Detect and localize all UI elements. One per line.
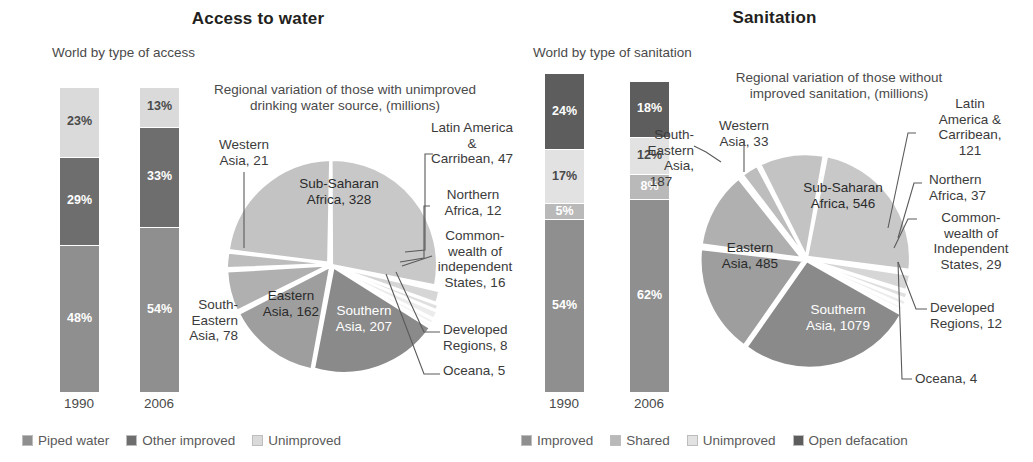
label-line: Asia, 485 <box>708 256 792 272</box>
sanitation-stacked-bar-1990: 24% 17% 5% 54% <box>545 74 584 392</box>
label-line: 121 <box>923 143 1017 159</box>
legend-item-improved[interactable]: Improved <box>521 433 593 448</box>
sanitation-pie-label-south-eastern-asia: South- Eastern Asia, 187 <box>628 127 694 189</box>
label-line: Western <box>703 118 785 134</box>
label-line: Regions, 12 <box>930 316 1020 332</box>
segment-value: 13% <box>147 99 172 113</box>
label-line: wealth of <box>428 244 522 260</box>
segment-value: 48% <box>67 311 92 325</box>
label-line: States, 16 <box>428 275 522 291</box>
label-line: Southern <box>792 302 884 318</box>
label-line: Latin America <box>424 120 520 136</box>
legend-label: Piped water <box>38 433 109 448</box>
label-line: Asia, <box>628 158 694 174</box>
label-line: Southern <box>322 303 406 319</box>
sanitation-panel: Sanitation World by type of sanitation 2… <box>516 0 1033 462</box>
sanitation-bar-year-1990: 1990 <box>532 396 596 411</box>
legend-item-other-improved[interactable]: Other improved <box>126 433 235 448</box>
label-line: Asia, 162 <box>252 304 330 320</box>
water-stacked-bar-1990: 23% 29% 48% <box>60 88 99 392</box>
water-pie-label-south-eastern-asia: South- Eastern Asia, 78 <box>166 297 238 344</box>
water-pie-label-northern-africa: Northern Africa, 12 <box>432 187 514 218</box>
label-line: Sub-Saharan <box>284 176 394 192</box>
water-bar-year-1990: 1990 <box>47 396 111 411</box>
segment-value: 5% <box>555 204 573 218</box>
label-line: Latin <box>923 96 1017 112</box>
legend-swatch-icon <box>22 435 33 446</box>
label-line: Africa, 328 <box>284 192 394 208</box>
access-to-water-panel: Access to water World by type of access … <box>0 0 516 462</box>
label-line: Northern <box>929 172 1017 188</box>
legend-label: Unimproved <box>268 433 341 448</box>
label-line: Regions, 8 <box>443 338 523 354</box>
caption-line-2: drinking water source, (millions) <box>190 98 500 114</box>
water-pie-label-oceana: Oceana, 5 <box>443 363 523 379</box>
segment-value: 29% <box>67 193 92 207</box>
segment-value: 24% <box>552 104 577 118</box>
legend-item-shared[interactable]: Shared <box>610 433 670 448</box>
caption-line-1: Regional variation of those with unimpro… <box>190 82 500 98</box>
water-bars-caption: World by type of access <box>52 45 195 60</box>
label-line: Asia, 207 <box>322 319 406 335</box>
legend-label: Unimproved <box>703 433 776 448</box>
legend-label: Open defacation <box>809 433 908 448</box>
water-1990-other-improved-segment: 29% <box>60 158 99 246</box>
sanitation-1990-improved-segment: 54% <box>545 220 584 392</box>
label-line: Eastern <box>628 143 694 159</box>
water-pie-label-southern-asia: Southern Asia, 207 <box>322 303 406 334</box>
label-line: Northern <box>432 187 514 203</box>
legend-label: Shared <box>626 433 670 448</box>
segment-value: 18% <box>637 101 662 115</box>
sanitation-bars-caption: World by type of sanitation <box>533 45 692 60</box>
legend-item-unimproved[interactable]: Unimproved <box>252 433 341 448</box>
legend-item-piped-water[interactable]: Piped water <box>22 433 109 448</box>
sanitation-pie-label-southern-asia: Southern Asia, 1079 <box>792 302 884 333</box>
label-line: America & <box>923 112 1017 128</box>
label-line: Sub-Saharan <box>788 180 898 196</box>
water-2006-unimproved-segment: 13% <box>140 88 179 128</box>
caption-line-1: Regional variation of those without <box>694 70 984 86</box>
legend-swatch-icon <box>126 435 137 446</box>
water-pie-label-developed-regions: Developed Regions, 8 <box>443 322 523 353</box>
sanitation-pie-label-latin-america-carribean: Latin America & Carribean, 121 <box>923 96 1017 158</box>
page-title-water: Access to water <box>0 9 516 29</box>
legend-item-unimproved[interactable]: Unimproved <box>687 433 776 448</box>
water-1990-unimproved-segment: 23% <box>60 88 99 158</box>
label-line: Carribean, 47 <box>424 151 520 167</box>
segment-value: 62% <box>637 288 662 302</box>
label-line: South- <box>166 297 238 313</box>
water-pie-label-sub-saharan-africa: Sub-Saharan Africa, 328 <box>284 176 394 207</box>
label-line: independent <box>428 259 522 275</box>
sanitation-1990-unimproved-segment: 17% <box>545 150 584 204</box>
segment-value: 33% <box>147 169 172 183</box>
legend-item-open-defacation[interactable]: Open defacation <box>793 433 908 448</box>
label-line: Common- <box>922 210 1020 226</box>
label-line: Eastern <box>166 313 238 329</box>
water-bar-year-2006: 2006 <box>127 396 191 411</box>
label-line: & <box>424 136 520 152</box>
segment-value: 23% <box>67 114 92 128</box>
sanitation-1990-open-defacation-segment: 24% <box>545 74 584 150</box>
label-line: Carribean, <box>923 127 1017 143</box>
sanitation-pie-label-commonwealth-independent-states: Common- wealth of Independent States, 29 <box>922 210 1020 272</box>
label-line: States, 29 <box>922 257 1020 273</box>
pie-slice-sub-saharan-africa <box>807 156 910 270</box>
water-pie-caption: Regional variation of those with unimpro… <box>190 82 500 114</box>
water-1990-piped-water-segment: 48% <box>60 246 99 392</box>
legend-swatch-icon <box>793 435 804 446</box>
label-line: 187 <box>628 174 694 190</box>
legend-swatch-icon <box>521 435 532 446</box>
water-pie-label-latin-america-carribean: Latin America & Carribean, 47 <box>424 120 520 167</box>
label-line: Africa, 12 <box>432 203 514 219</box>
segment-value: 54% <box>552 298 577 312</box>
label-line: Asia, 78 <box>166 328 238 344</box>
sanitation-pie-label-oceana: Oceana, 4 <box>915 371 1005 387</box>
sanitation-2006-improved-segment: 62% <box>630 200 669 392</box>
water-stacked-bar-2006: 13% 33% 54% <box>140 88 179 392</box>
sanitation-1990-shared-segment: 5% <box>545 204 584 220</box>
water-pie-label-commonwealth-independent-states: Common- wealth of independent States, 16 <box>428 228 522 290</box>
legend-label: Other improved <box>142 433 235 448</box>
water-pie-label-eastern-asia: Eastern Asia, 162 <box>252 288 330 319</box>
sanitation-pie-label-sub-saharan-africa: Sub-Saharan Africa, 546 <box>788 180 898 211</box>
sanitation-bar-year-2006: 2006 <box>617 396 681 411</box>
